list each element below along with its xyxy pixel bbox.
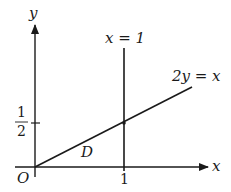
y-axis-label: y <box>28 4 38 22</box>
y-tick-numerator: 1 <box>17 104 26 120</box>
vertical-line-label: x = 1 <box>105 29 145 47</box>
diagram-svg: y x O x = 1 2y = x 1 1 2 D <box>0 0 231 192</box>
diagonal-line-2y-equals-x <box>35 87 192 167</box>
x-axis-label: x <box>212 157 221 175</box>
x-tick-label: 1 <box>120 171 129 187</box>
diagram-canvas: y x O x = 1 2y = x 1 1 2 D <box>0 0 231 192</box>
origin-label: O <box>17 169 29 187</box>
y-tick-denominator: 2 <box>17 123 26 139</box>
diagonal-line-label: 2y = x <box>171 67 221 85</box>
region-label: D <box>80 143 93 161</box>
intersection-point <box>122 121 126 125</box>
